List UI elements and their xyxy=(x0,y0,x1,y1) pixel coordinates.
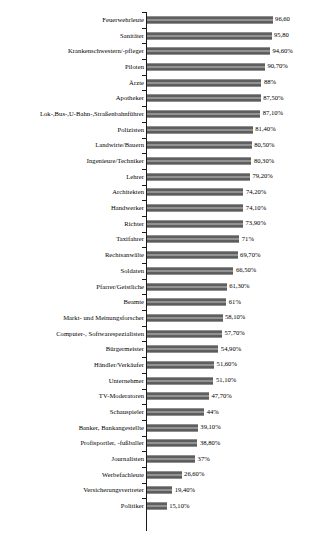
axis-tick xyxy=(142,467,146,468)
bar-row: Ärzte88% xyxy=(0,75,324,91)
axis-tick xyxy=(142,122,146,123)
category-label: Pfarrer/Geistliche xyxy=(96,283,144,290)
axis-tick xyxy=(142,498,146,499)
category-label: Taxifahrer xyxy=(116,236,144,243)
value-label: 51,60% xyxy=(214,362,237,369)
category-label: Ingenieure/Techniker xyxy=(87,158,144,165)
value-label: 71% xyxy=(239,236,254,243)
bar-container: 90,70% xyxy=(147,63,277,70)
bar-row: Apotheker87,50% xyxy=(0,90,324,106)
bar-container: 71% xyxy=(147,236,277,243)
category-label: Lehrer xyxy=(126,173,144,180)
value-label: 74,20% xyxy=(243,189,266,196)
bar-row: Handwerker74,10% xyxy=(0,200,324,216)
bar xyxy=(147,158,251,165)
value-label: 69,70% xyxy=(238,252,261,259)
value-label: 15,10% xyxy=(167,503,190,510)
value-label: 58,10% xyxy=(223,315,246,322)
value-label: 44% xyxy=(204,409,219,416)
bar-row: Sanitäter95,80 xyxy=(0,28,324,44)
bar-row: TV-Moderatoren47,70% xyxy=(0,389,324,405)
bar xyxy=(147,503,167,510)
bar-row: Richter73,90% xyxy=(0,216,324,232)
bar xyxy=(147,283,227,290)
bar-container: 80,50% xyxy=(147,142,277,149)
value-label: 87,10% xyxy=(260,111,283,118)
value-label: 66,50% xyxy=(233,268,256,275)
axis-tick xyxy=(142,420,146,421)
bar-row: Feuerwehrleute96,60 xyxy=(0,12,324,28)
bar-container: 79,20% xyxy=(147,173,277,180)
axis-tick xyxy=(142,436,146,437)
value-label: 80,50% xyxy=(252,142,275,149)
bar xyxy=(147,32,272,39)
bar-row: Beamte61% xyxy=(0,294,324,310)
axis-tick xyxy=(142,216,146,217)
bar xyxy=(147,424,198,431)
bar-row: Unternehmer51,10% xyxy=(0,373,324,389)
category-label: Unternehmer xyxy=(109,377,144,384)
bar-row: Taxifahrer71% xyxy=(0,232,324,248)
axis-tick xyxy=(142,75,146,76)
bar xyxy=(147,377,213,384)
axis-tick xyxy=(142,389,146,390)
bar-container: 94,60% xyxy=(147,48,277,55)
axis-tick xyxy=(142,326,146,327)
bar xyxy=(147,126,253,133)
category-label: Computer-, Softwarespezialisten xyxy=(56,330,144,337)
category-label: Banker, Bankangestellte xyxy=(79,424,144,431)
bar xyxy=(147,346,218,353)
category-label: Werbefachleute xyxy=(102,471,144,478)
bar-row: Soldaten66,50% xyxy=(0,263,324,279)
axis-tick xyxy=(142,185,146,186)
category-label: Sanitäter xyxy=(120,32,144,39)
bar-container: 69,70% xyxy=(147,252,277,259)
bar xyxy=(147,205,243,212)
category-label: Apotheker xyxy=(116,95,144,102)
axis-tick xyxy=(142,59,146,60)
bar-container: 74,20% xyxy=(147,189,277,196)
bar xyxy=(147,330,222,337)
bar xyxy=(147,16,273,23)
value-label: 95,80 xyxy=(272,32,289,39)
bar-container: 88% xyxy=(147,79,277,86)
axis-tick xyxy=(142,294,146,295)
category-label: Rechtsanwälte xyxy=(105,252,144,259)
bar-container: 19,40% xyxy=(147,487,277,494)
bar-container: 96,60 xyxy=(147,16,277,23)
axis-tick xyxy=(142,232,146,233)
axis-tick xyxy=(142,310,146,311)
bar-row: Pfarrer/Geistliche61,30% xyxy=(0,279,324,295)
bar xyxy=(147,142,252,149)
bar-container: 39,10% xyxy=(147,424,277,431)
bar-container: 87,50% xyxy=(147,95,277,102)
axis-tick xyxy=(142,12,146,13)
bar xyxy=(147,48,270,55)
axis-tick xyxy=(142,90,146,91)
axis-tick xyxy=(142,279,146,280)
value-label: 47,70% xyxy=(209,393,232,400)
category-label: Piloten xyxy=(125,64,144,71)
axis-tick xyxy=(142,404,146,405)
category-label: Polizisten xyxy=(117,126,144,133)
bar-row: Piloten90,70% xyxy=(0,59,324,75)
axis-tick xyxy=(142,373,146,374)
category-label: Lok-,Bus-,U-Bahn-,Straßenbahnführer xyxy=(40,111,144,118)
axis-tick xyxy=(142,169,146,170)
bar-container: 81,40% xyxy=(147,126,277,133)
bar-container: 51,10% xyxy=(147,377,277,384)
value-label: 39,10% xyxy=(198,424,221,431)
bar-container: 37% xyxy=(147,456,277,463)
bar-row: Architekten74,20% xyxy=(0,185,324,201)
value-label: 54,90% xyxy=(218,346,241,353)
category-label: Krankenschwestern/-pfleger xyxy=(68,48,144,55)
bar-container: 61,30% xyxy=(147,283,277,290)
bar-rows-container: Feuerwehrleute96,60Sanitäter95,80Kranken… xyxy=(0,12,324,514)
axis-tick xyxy=(142,28,146,29)
bar-row: Rechtsanwälte69,70% xyxy=(0,247,324,263)
bar-row: Polizisten81,40% xyxy=(0,122,324,138)
bar-container: 87,10% xyxy=(147,110,277,117)
bar xyxy=(147,189,243,196)
bar xyxy=(147,471,182,478)
bar-row: Bürgermeister54,90% xyxy=(0,341,324,357)
